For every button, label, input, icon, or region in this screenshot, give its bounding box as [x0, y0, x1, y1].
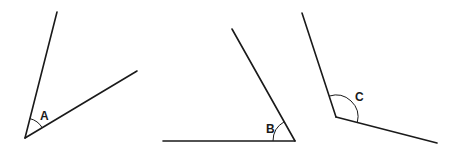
angle-b: B	[163, 29, 295, 141]
angle-b-ray-1	[232, 29, 295, 141]
angle-c-label: C	[355, 90, 364, 104]
angle-a-ray-2	[25, 71, 137, 138]
angle-a: A	[25, 12, 137, 138]
angles-diagram: A B C	[0, 0, 460, 156]
angle-c-ray-1	[302, 13, 336, 117]
angle-b-label: B	[266, 122, 275, 136]
angle-c-ray-2	[336, 117, 437, 143]
angle-c: C	[302, 13, 437, 143]
angle-b-arc	[273, 122, 284, 141]
angle-a-label: A	[40, 109, 49, 123]
